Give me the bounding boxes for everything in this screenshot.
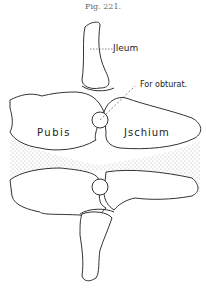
lower-ischium bbox=[104, 170, 198, 210]
upper-ischium bbox=[104, 98, 201, 149]
cropped-caption bbox=[2, 284, 206, 290]
upper-ileum bbox=[82, 22, 109, 88]
upper-pubis bbox=[10, 92, 104, 150]
pelvis-diagram bbox=[0, 0, 206, 290]
lower-foramen bbox=[92, 179, 108, 195]
label-ileum: Jleum bbox=[113, 43, 138, 53]
label-pubis: Pubis bbox=[37, 127, 71, 138]
label-foramen-obturator: For obturat. bbox=[140, 80, 187, 89]
lower-ileum bbox=[80, 212, 112, 281]
label-ischium: Jschium bbox=[124, 127, 170, 138]
